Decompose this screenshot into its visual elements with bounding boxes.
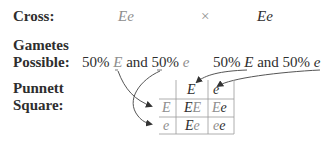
row-header: E xyxy=(162,100,171,116)
col-header: E xyxy=(187,82,196,98)
punnett-cell-Ee: Ee xyxy=(212,100,227,116)
punnett-cell-Ee: Ee xyxy=(185,118,200,134)
punnett-cell-EE: EE xyxy=(184,100,201,116)
punnett-cell-ee: ee xyxy=(213,118,225,134)
col-header: e xyxy=(213,82,219,98)
row-header: e xyxy=(163,118,169,134)
